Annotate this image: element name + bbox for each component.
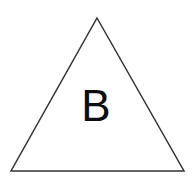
triangle-label-b: B (0, 84, 192, 128)
figure-canvas: B (0, 0, 192, 177)
